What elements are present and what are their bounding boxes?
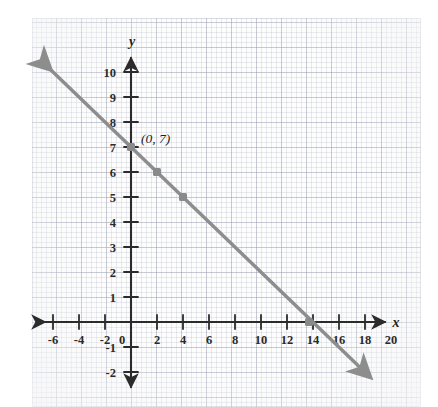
point-annotation-label: (0, 7) [141, 131, 171, 146]
x-tick-label: 4 [180, 333, 187, 347]
x-tick-label: 2 [154, 333, 160, 347]
x-tick-label: -6 [48, 333, 58, 347]
y-tick-label: 6 [110, 166, 116, 180]
y-tick-label: 9 [110, 91, 116, 105]
x-tick-label: 14 [307, 333, 320, 347]
data-point-14-0 [305, 318, 313, 326]
coordinate-plane: -6 -4 -2 2 4 6 8 10 12 14 16 18 20 10 9 … [0, 0, 438, 407]
x-tick-label: -4 [74, 333, 85, 347]
y-tick-label: -2 [106, 366, 116, 380]
y-axis-label: y [127, 34, 136, 49]
x-tick-labels: -6 -4 -2 2 4 6 8 10 12 14 16 18 20 [48, 333, 397, 347]
y-tick-label: 1 [110, 291, 116, 305]
plotted-line [50, 70, 370, 378]
line-segment [50, 70, 370, 378]
y-tick-label: 4 [110, 216, 117, 230]
origin-label: 0 [119, 333, 125, 347]
data-point-0-7 [127, 143, 135, 151]
y-tick-label: 10 [104, 66, 117, 80]
x-tick-label: 8 [232, 333, 238, 347]
x-tick-label: 18 [359, 333, 372, 347]
y-tick-label: 3 [110, 241, 116, 255]
x-axis-label: x [392, 315, 400, 330]
y-tick-label: 2 [110, 266, 116, 280]
y-tick-label: -1 [106, 341, 116, 355]
x-tick-label: 10 [255, 333, 268, 347]
y-tick-label: 7 [110, 141, 116, 155]
data-point-2-6 [153, 168, 161, 176]
graph-screenshot: -6 -4 -2 2 4 6 8 10 12 14 16 18 20 10 9 … [0, 0, 438, 407]
x-tick-label: 6 [206, 333, 212, 347]
data-point-4-5 [179, 193, 187, 201]
x-tick-label: 20 [385, 333, 398, 347]
y-tick-label: 5 [110, 191, 116, 205]
x-tick-label: 12 [281, 333, 294, 347]
